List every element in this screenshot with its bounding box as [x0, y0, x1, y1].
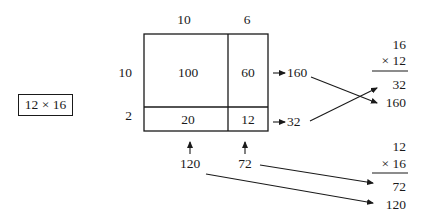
column-sum-arrows — [190, 142, 245, 154]
cell-12: 12 — [232, 113, 264, 127]
cell-100: 100 — [170, 66, 206, 80]
column-sum-72: 72 — [232, 157, 258, 171]
row-sum-arrows — [273, 73, 285, 122]
algo-b-partial-72: 72 — [370, 180, 406, 194]
cell-20: 20 — [170, 113, 206, 127]
row-header-ones: 2 — [112, 109, 132, 123]
algo-b-multiplicand: 12 — [370, 140, 406, 154]
row-sum-160: 160 — [287, 66, 307, 80]
algo-a-multiplier: × 12 — [366, 54, 406, 68]
cell-60: 60 — [232, 66, 264, 80]
algo-a-partial-32: 32 — [370, 78, 406, 92]
cross-arrows-a — [310, 77, 377, 121]
column-header-ones: 6 — [239, 13, 255, 27]
algo-a-partial-160: 160 — [370, 96, 406, 110]
row-sum-32: 32 — [287, 115, 301, 129]
algo-b-multiplier: × 16 — [366, 157, 406, 171]
row-header-tens: 10 — [112, 66, 132, 80]
problem-expression: 12 × 16 — [25, 97, 66, 113]
algo-b-partial-120: 120 — [370, 198, 406, 212]
algo-a-multiplicand: 16 — [370, 38, 406, 52]
problem-expression-box: 12 × 16 — [18, 94, 73, 116]
column-header-tens: 10 — [172, 13, 196, 27]
column-sum-120: 120 — [174, 157, 206, 171]
